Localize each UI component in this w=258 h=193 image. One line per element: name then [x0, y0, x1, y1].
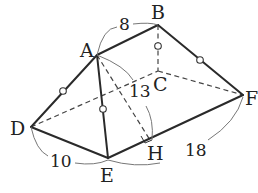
- measure-de: 10: [50, 151, 72, 171]
- edge-cf: [158, 71, 243, 95]
- vertex-label-b: B: [151, 1, 165, 23]
- geometry-figure: A B C D E F H 8 13 10 18: [0, 0, 258, 193]
- equal-mark-ae: [100, 106, 107, 113]
- equal-mark-bf: [197, 57, 204, 64]
- vertex-label-f: F: [245, 87, 258, 109]
- vertex-label-h: H: [147, 142, 164, 164]
- vertex-label-c: C: [153, 73, 168, 95]
- vertex-label-d: D: [10, 117, 25, 139]
- arc-ab-2: [133, 23, 158, 25]
- measure-ef: 18: [185, 140, 207, 160]
- equal-mark-bc: [155, 43, 162, 50]
- measure-ah: 13: [129, 81, 151, 101]
- arc-ah: [97, 55, 133, 80]
- vertex-label-e: E: [100, 164, 114, 186]
- edge-ef: [108, 95, 243, 158]
- measure-ab: 8: [119, 14, 130, 34]
- vertex-label-a: A: [79, 39, 94, 61]
- equal-mark-ad: [60, 88, 67, 95]
